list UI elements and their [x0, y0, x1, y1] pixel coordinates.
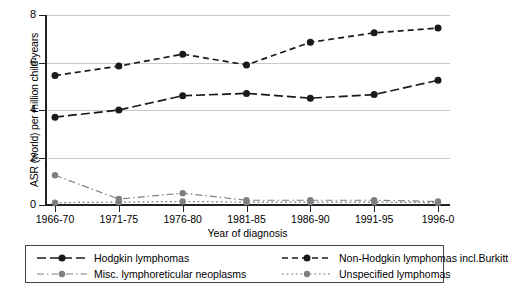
data-point: [307, 95, 314, 102]
data-point: [179, 92, 186, 99]
data-point: [371, 91, 378, 98]
series-1: [52, 25, 442, 80]
data-point: [115, 63, 122, 70]
legend-swatch: [281, 268, 333, 280]
data-point: [435, 25, 442, 32]
data-point: [52, 199, 58, 205]
series-line: [55, 80, 438, 117]
data-point: [307, 199, 313, 205]
legend-item: Unspecified lymphomas: [281, 267, 450, 281]
data-point: [179, 198, 185, 204]
x-axis-title: Year of diagnosis: [45, 227, 450, 239]
legend-swatch: [281, 252, 333, 264]
data-point: [52, 72, 59, 79]
data-point: [371, 29, 378, 36]
legend-label: Unspecified lymphomas: [339, 268, 450, 280]
data-point: [307, 39, 314, 46]
legend-item: Hodgkin lymphomas: [36, 251, 189, 265]
data-point: [179, 51, 186, 58]
data-point: [243, 199, 249, 205]
data-point: [243, 90, 250, 97]
series-0: [52, 77, 442, 121]
legend-swatch: [36, 268, 88, 280]
data-point: [243, 61, 250, 68]
legend-item: Misc. lymphoreticular neoplasms: [36, 267, 246, 281]
data-point: [435, 77, 442, 84]
data-point: [52, 114, 59, 121]
data-point: [435, 199, 441, 205]
legend-item: Non-Hodgkin lymphomas incl.Burkitt: [281, 251, 508, 265]
data-point: [179, 190, 185, 196]
data-point: [371, 199, 377, 205]
chart-legend: Hodgkin lymphomasNon-Hodgkin lymphomas i…: [25, 245, 444, 283]
legend-swatch: [36, 252, 88, 264]
legend-label: Hodgkin lymphomas: [94, 252, 189, 264]
legend-label: Non-Hodgkin lymphomas incl.Burkitt: [339, 252, 508, 264]
data-point: [116, 199, 122, 205]
data-point: [115, 107, 122, 114]
series-3: [52, 198, 441, 206]
data-point: [52, 172, 58, 178]
series-line: [55, 28, 438, 76]
legend-label: Misc. lymphoreticular neoplasms: [94, 268, 246, 280]
